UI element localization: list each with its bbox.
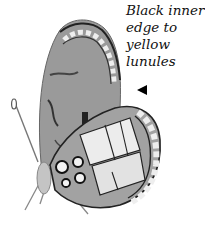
antenna (12, 99, 38, 162)
caption-line: Black inner (126, 2, 205, 19)
caption-line: lunules (126, 53, 205, 70)
annotation-caption: Black inner edge to yellow lunules (126, 2, 205, 70)
caption-line: yellow (126, 36, 205, 53)
pointer-triangle-icon (137, 85, 147, 95)
body (37, 162, 51, 194)
caption-line: edge to (126, 19, 205, 36)
